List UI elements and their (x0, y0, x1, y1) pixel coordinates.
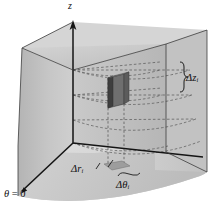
delta-z-subscript: i (196, 76, 198, 83)
delta-z-label: Δzi (186, 73, 198, 84)
delta-r-label: Δri (71, 164, 83, 175)
volume-element-box (108, 72, 129, 108)
figure-canvas (0, 0, 211, 209)
theta-zero-value: 0 (20, 188, 25, 199)
z-axis-label: z (68, 1, 72, 11)
element-left-face (108, 76, 113, 108)
element-right-face (124, 72, 129, 104)
theta-zero-label: θ = 0 (4, 189, 26, 200)
cylindrical-volume-element-figure: z Δzi Δri Δθi θ = 0 (0, 0, 211, 209)
delta-theta-subscript: i (127, 183, 129, 190)
delta-theta-label: Δθi (116, 180, 129, 191)
delta-r-subscript: i (81, 167, 83, 174)
right-slab-surface (166, 30, 207, 172)
right-slab-edge (166, 30, 207, 172)
